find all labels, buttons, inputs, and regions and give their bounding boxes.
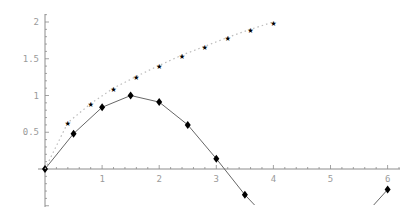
x-tick-label: 1 — [99, 174, 104, 184]
x-tick-label: 3 — [214, 174, 219, 184]
star-marker: ★ — [133, 71, 139, 82]
star-marker: ★ — [202, 41, 208, 52]
series-sqrt: ★★★★★★★★★★ — [45, 17, 276, 170]
x-tick-label: 2 — [156, 174, 161, 184]
x-tick-label: 4 — [271, 174, 276, 184]
y-tick-label: 2 — [34, 17, 39, 27]
diamond-marker — [99, 103, 105, 111]
y-tick-label: 1 — [34, 91, 39, 101]
x-tick-label: 6 — [385, 174, 390, 184]
star-marker: ★ — [179, 50, 185, 61]
diamond-marker — [156, 98, 162, 106]
series-sin — [42, 92, 391, 208]
sqrt-line — [45, 22, 273, 169]
star-marker: ★ — [65, 117, 71, 128]
y-tick-label: 0.5 — [23, 127, 39, 137]
diamond-marker — [128, 92, 134, 100]
star-marker: ★ — [88, 98, 94, 109]
star-marker: ★ — [111, 83, 117, 94]
star-marker: ★ — [225, 32, 231, 43]
star-marker: ★ — [248, 24, 254, 35]
chart-plot: 1234560.511.52 ★★★★★★★★★★ — [0, 0, 417, 207]
x-tick-label: 5 — [328, 174, 333, 184]
star-marker: ★ — [156, 60, 162, 71]
y-tick-label: 1.5 — [23, 54, 39, 64]
sin-line — [45, 96, 388, 208]
star-marker: ★ — [270, 17, 276, 28]
